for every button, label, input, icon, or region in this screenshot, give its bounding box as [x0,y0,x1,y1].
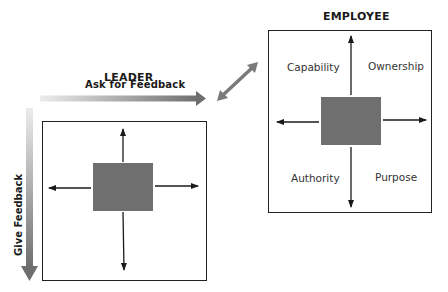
give-feedback-arrow [21,108,38,281]
employee-arrows [277,36,426,207]
arrow-down-icon [123,212,124,270]
leader-arrows [49,129,198,270]
arrows-layer [0,0,448,292]
connector-double-arrow [217,62,258,101]
ask-for-feedback-arrow [40,91,206,106]
